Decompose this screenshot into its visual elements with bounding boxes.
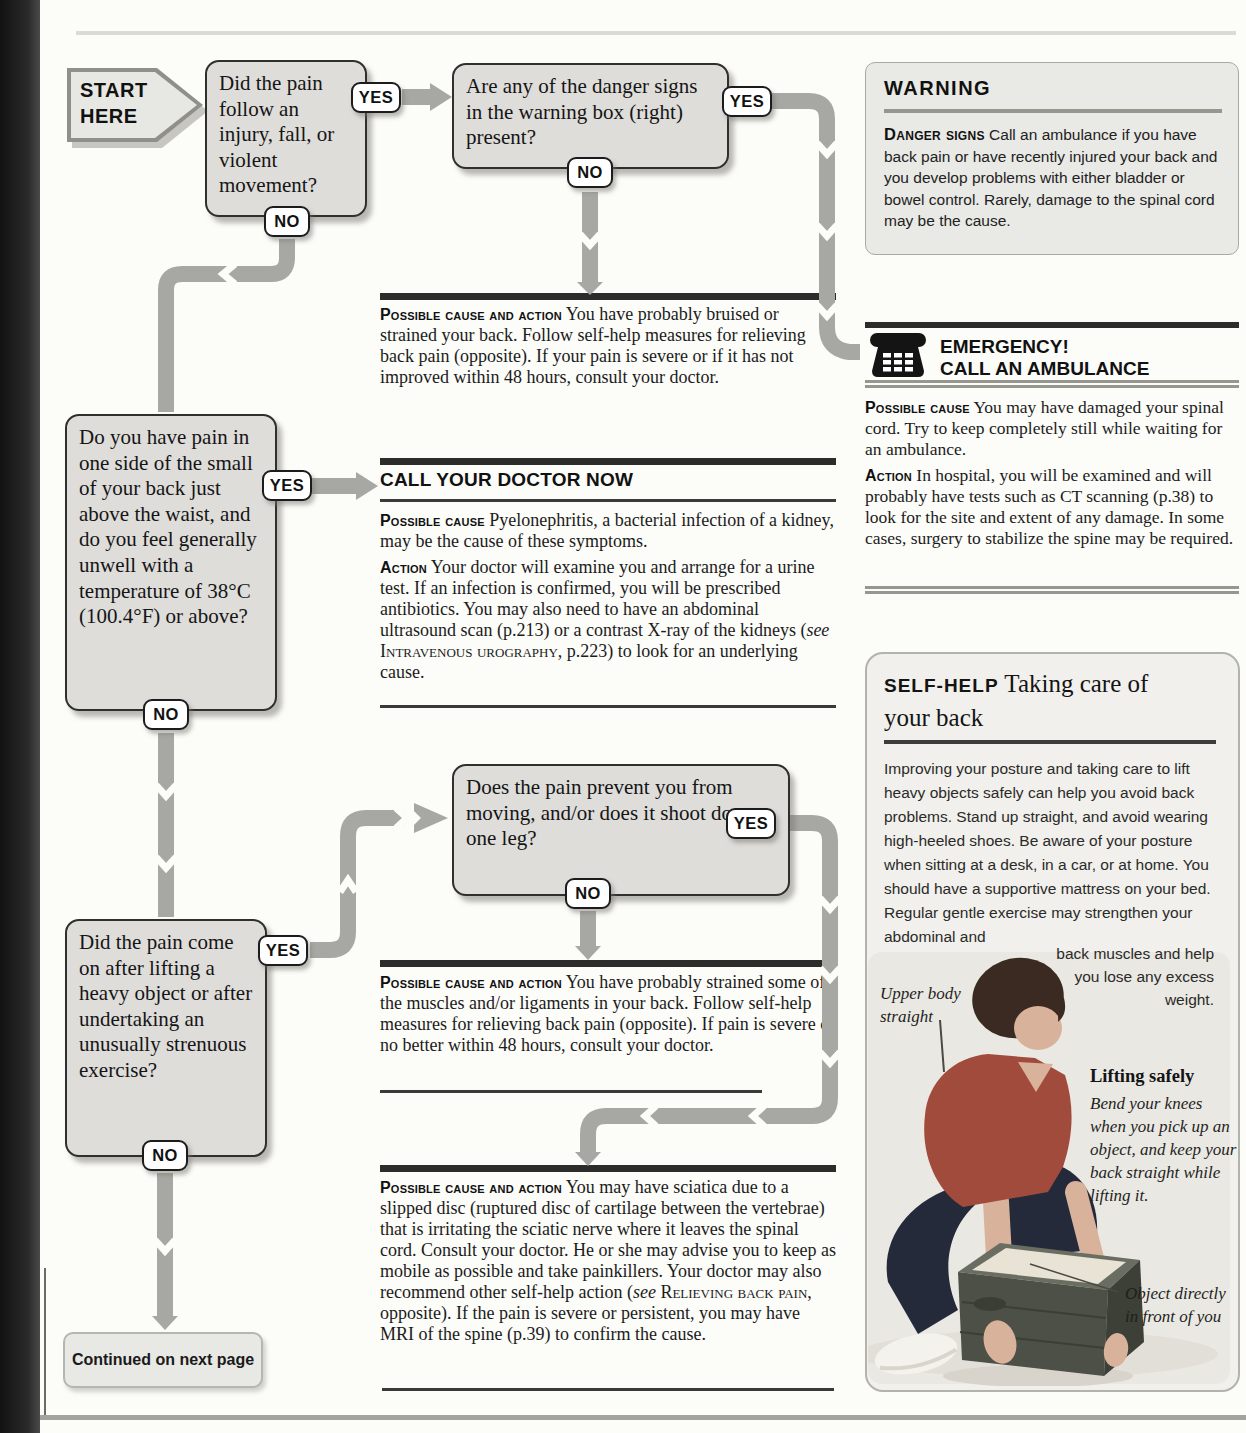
- question-danger-signs: Are any of the danger signs in the warni…: [452, 63, 729, 169]
- top-divider-rule: [76, 31, 1236, 35]
- caption-lifting-safely-title: Lifting safely: [1090, 1066, 1194, 1087]
- book-spine: [0, 0, 40, 1433]
- emergency-bottom-divider: [865, 591, 1239, 594]
- warning-title: WARNING: [884, 77, 1220, 100]
- result-bruised-text: Possible cause and action You have proba…: [380, 304, 836, 388]
- emergency-divider: [865, 380, 1239, 383]
- call-doctor-rule: [380, 458, 836, 465]
- emergency-bottom-divider: [865, 586, 1239, 589]
- warning-body: Danger signs Call an ambulance if you ha…: [884, 123, 1220, 231]
- no-pill-q4: NO: [142, 1140, 188, 1171]
- yes-pill-q3: YES: [262, 470, 312, 501]
- call-doctor-subrule: [380, 499, 836, 502]
- question-kidney-pain: Do you have pain in one side of the smal…: [65, 414, 277, 711]
- no-pill-q1: NO: [264, 206, 310, 237]
- emergency-action: Action In hospital, you will be examined…: [865, 465, 1243, 549]
- possible-cause-label: Possible cause: [380, 512, 485, 529]
- warning-box: WARNING Danger signs Call an ambulance i…: [865, 62, 1239, 255]
- warning-rule: [884, 109, 1222, 113]
- possible-cause-action-label: Possible cause and action: [380, 974, 562, 991]
- no-pill-q2: NO: [567, 157, 613, 188]
- result-sciatica-bottom-rule: [382, 1388, 834, 1391]
- yes-pill-q2: YES: [722, 86, 772, 117]
- result-strained-text: Possible cause and action You have proba…: [380, 972, 836, 1056]
- emergency-divider: [865, 385, 1239, 388]
- page: { "flow": { "start": "START HERE", "yes"…: [0, 0, 1246, 1433]
- emergency-cause: Possible cause You may have damaged your…: [865, 397, 1241, 460]
- call-doctor-cause: Possible cause Pyelonephritis, a bacteri…: [380, 510, 836, 552]
- self-help-heading: SELF-HELP Taking care of your back: [884, 668, 1184, 734]
- result-strained-rule: [380, 960, 836, 967]
- question-injury: Did the pain follow an injury, fall, or …: [205, 60, 367, 217]
- self-help-body-wrap: back muscles and help you lose any exces…: [1040, 942, 1214, 1011]
- start-here-label: START HERE: [80, 77, 160, 129]
- caption-upper-body: Upper body straight: [880, 982, 980, 1028]
- self-help-label: SELF-HELP: [884, 675, 999, 696]
- result-strained-bottom-rule: [380, 1090, 762, 1093]
- call-doctor-bottom-rule: [380, 705, 836, 708]
- result-sciatica-rule: [380, 1165, 836, 1172]
- yes-pill-q5: YES: [726, 808, 776, 839]
- action-label: Action: [380, 559, 427, 576]
- yes-pill-q4: YES: [258, 935, 308, 966]
- self-help-body: Improving your posture and taking care t…: [884, 757, 1229, 949]
- self-help-rule: [884, 740, 1216, 744]
- call-doctor-action: Action Your doctor will examine you and …: [380, 557, 836, 683]
- yes-pill-q1: YES: [351, 82, 401, 113]
- possible-cause-label: Possible cause: [865, 399, 970, 416]
- bottom-divider-rule: [40, 1415, 1246, 1420]
- no-pill-q3: NO: [143, 699, 189, 730]
- emergency-top-rule: [865, 322, 1239, 328]
- caption-object: Object directly in front of you: [1125, 1282, 1237, 1328]
- page-edge-line: [44, 1268, 46, 1418]
- caption-lifting-safely-text: Bend your knees when you pick up an obje…: [1090, 1092, 1242, 1207]
- result-bruised-rule: [380, 293, 836, 300]
- emergency-title: EMERGENCY!CALL AN AMBULANCE: [940, 336, 1240, 380]
- continued-next-page: Continued on next page: [63, 1332, 263, 1388]
- result-sciatica-text: Possible cause and action You may have s…: [380, 1177, 836, 1345]
- question-lifting: Did the pain come on after lifting a hea…: [65, 919, 267, 1157]
- possible-cause-action-label: Possible cause and action: [380, 306, 562, 323]
- no-pill-q5: NO: [565, 878, 611, 909]
- possible-cause-action-label: Possible cause and action: [380, 1179, 562, 1196]
- action-label: Action: [865, 467, 912, 484]
- call-doctor-heading: CALL YOUR DOCTOR NOW: [380, 469, 836, 491]
- phone-icon: [868, 331, 928, 379]
- danger-signs-label: Danger signs: [884, 125, 985, 143]
